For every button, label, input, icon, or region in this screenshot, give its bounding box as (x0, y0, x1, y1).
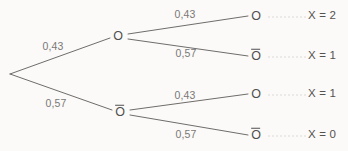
edge-probability-obar-o: 0,43 (175, 90, 196, 101)
outcome-label-3: X = 1 (308, 88, 336, 100)
leaf-node-3-o: O (251, 88, 261, 101)
leader-dots-outcome-4 (267, 136, 307, 137)
edge-probability-obar-obar: 0,57 (176, 129, 197, 140)
node-level1-o: O (113, 30, 123, 43)
leaf-node-4-o-bar: O (251, 129, 261, 142)
tree-branch-lines (0, 0, 348, 151)
edge-probability-root-o: 0,43 (43, 41, 64, 52)
outcome-label-2: X = 1 (308, 50, 336, 62)
leader-dots-outcome-1 (267, 17, 307, 18)
outcome-label-4: X = 0 (308, 129, 336, 141)
leader-dots-outcome-2 (267, 57, 307, 58)
leaf-node-2-o-bar: O (251, 50, 261, 63)
outcome-label-1: X = 2 (308, 10, 336, 22)
leader-dots-outcome-3 (267, 95, 307, 96)
probability-tree-diagram: O O O O O O 0,43 0,57 0,43 0,57 0,43 0,5… (0, 0, 348, 151)
node-level1-o-bar: O (115, 106, 125, 119)
edge-probability-o-o: 0,43 (175, 9, 196, 20)
edge-probability-root-obar: 0,57 (46, 98, 67, 109)
edge-probability-o-obar: 0,57 (176, 48, 197, 59)
leaf-node-1-o: O (251, 10, 261, 23)
